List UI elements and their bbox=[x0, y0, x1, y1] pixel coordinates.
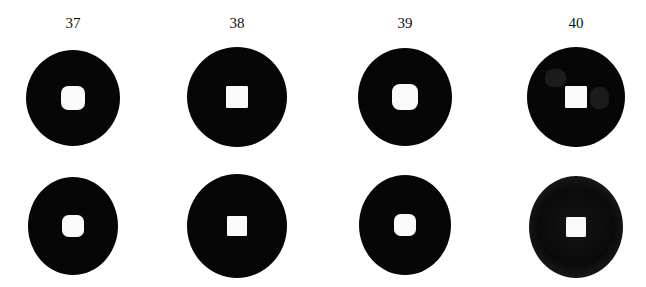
specimen-label-39: 39 bbox=[398, 15, 413, 32]
coin-37-obverse bbox=[26, 50, 120, 146]
square-hole-icon bbox=[62, 215, 84, 237]
coin-38-reverse bbox=[187, 174, 287, 278]
square-hole-icon bbox=[565, 86, 587, 108]
specimen-label-37: 37 bbox=[66, 15, 81, 32]
square-hole-icon bbox=[394, 214, 416, 236]
square-hole-icon bbox=[566, 217, 586, 237]
square-hole-icon bbox=[392, 84, 418, 110]
square-hole-icon bbox=[226, 86, 248, 108]
coin-40-reverse bbox=[529, 176, 623, 278]
coin-39-obverse bbox=[358, 48, 452, 146]
coin-39-reverse bbox=[359, 175, 451, 275]
specimen-label-38: 38 bbox=[230, 15, 245, 32]
coin-40-obverse bbox=[527, 47, 625, 147]
specimen-label-40: 40 bbox=[569, 15, 584, 32]
square-hole-icon bbox=[227, 216, 247, 236]
coin-38-obverse bbox=[187, 47, 287, 147]
square-hole-icon bbox=[61, 86, 85, 110]
coin-37-reverse bbox=[28, 177, 118, 275]
